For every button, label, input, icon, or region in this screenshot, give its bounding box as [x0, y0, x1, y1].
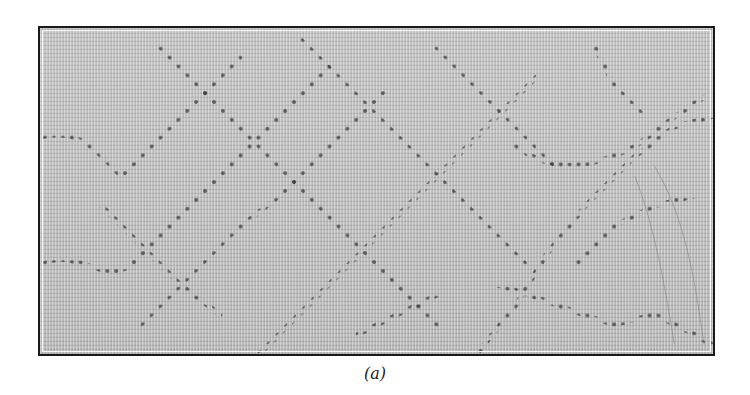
fabric-figure — [38, 26, 715, 356]
figure-caption: (a) — [0, 364, 750, 383]
fabric-pattern-lines — [40, 28, 713, 354]
